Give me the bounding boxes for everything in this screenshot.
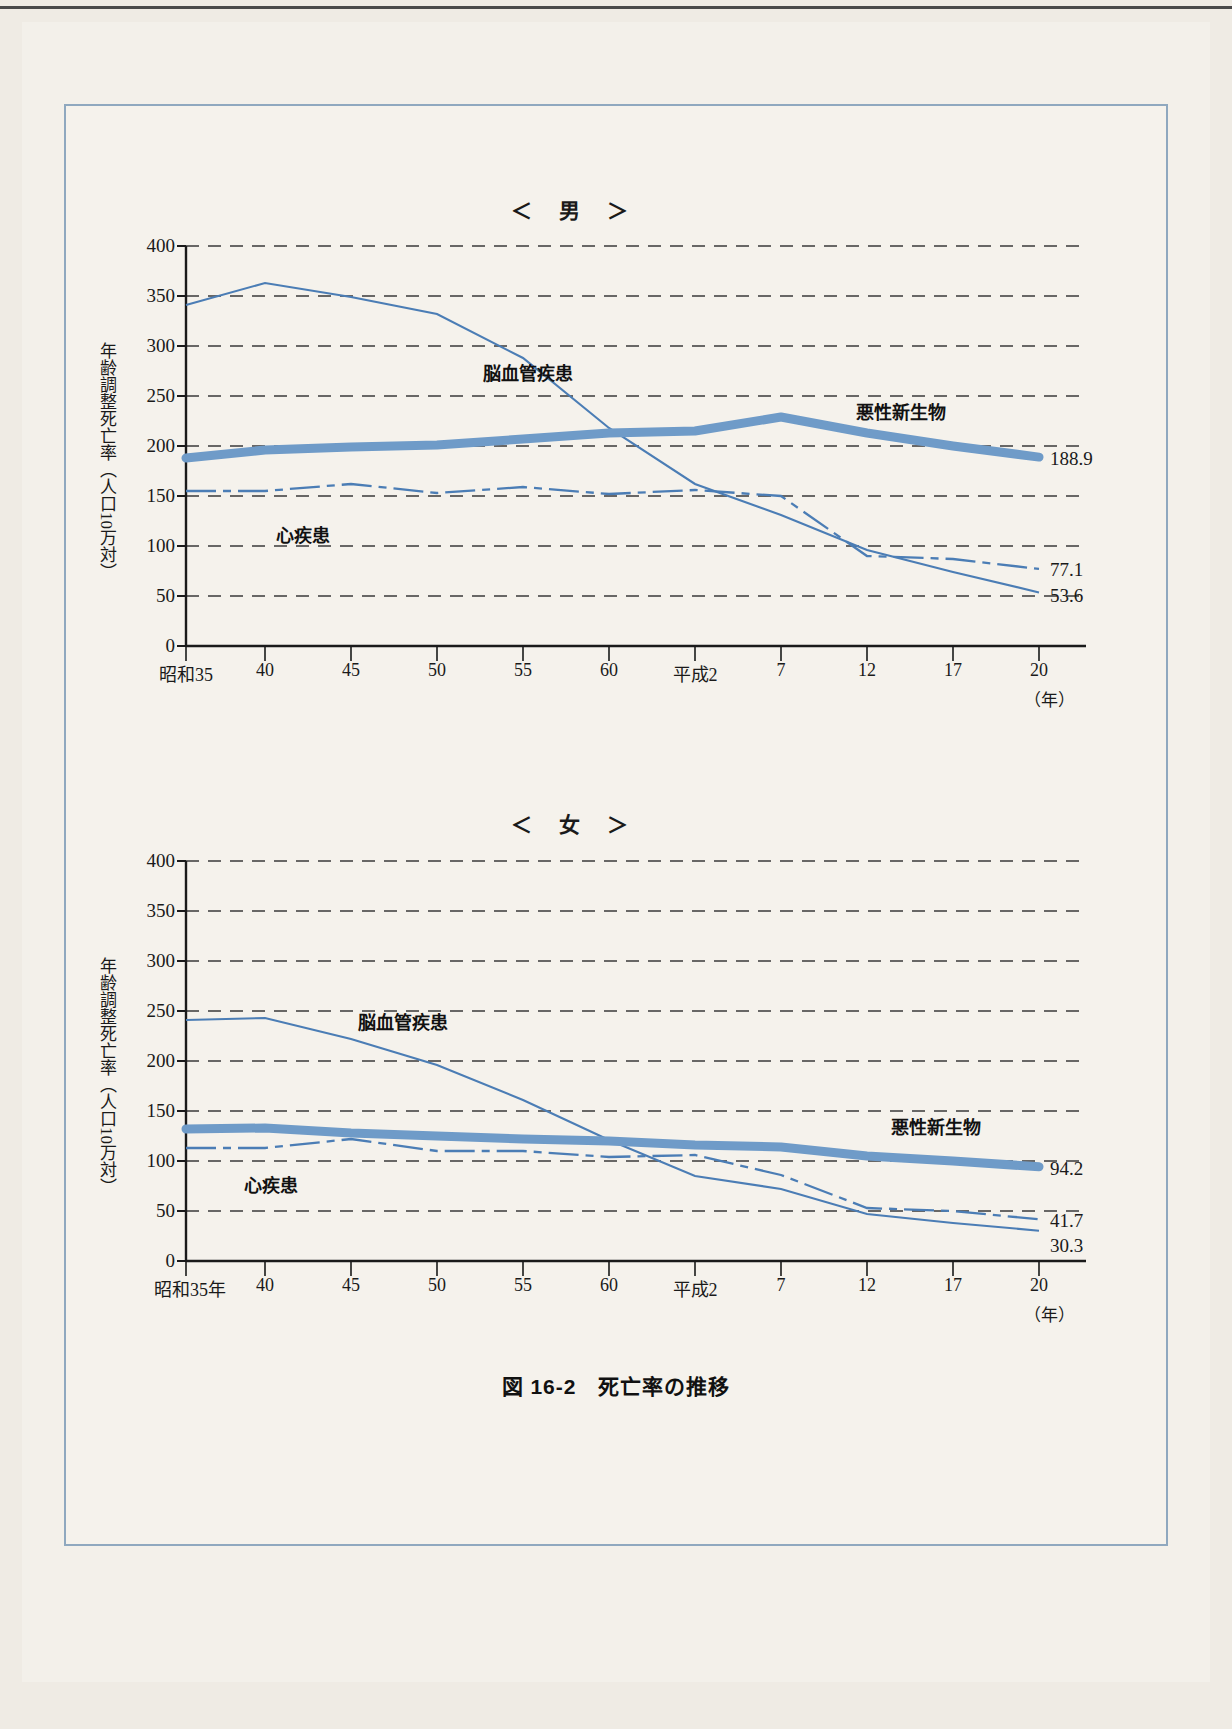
y-tick-male-250: 250 xyxy=(147,385,187,407)
x-tick-female-3: 50 xyxy=(428,1275,446,1296)
x-unit-label-male: （年） xyxy=(1024,686,1075,711)
x-tick-male-4: 55 xyxy=(514,660,532,681)
plot-svg-female xyxy=(186,861,1046,1261)
y-tick-male-100: 100 xyxy=(147,535,187,557)
end-label-cerebrovascular-male: 53.6 xyxy=(1050,585,1083,607)
x-tick-male-10: 20 xyxy=(1030,660,1048,681)
x-tick-female-1: 40 xyxy=(256,1275,274,1296)
y-tick-female-300: 300 xyxy=(147,950,187,972)
x-tick-male-7: 7 xyxy=(777,660,786,681)
y-tick-male-200: 200 xyxy=(147,435,187,457)
series-label-heart-female: 心疾患 xyxy=(244,1171,298,1197)
y-tick-female-250: 250 xyxy=(147,1000,187,1022)
page-top-rule xyxy=(0,6,1232,9)
chart-female: ＜ 女 ＞ 年齢調整死亡率（人口10万対） 400 350 300 250 20… xyxy=(66,746,1162,1406)
series-label-heart-male: 心疾患 xyxy=(276,521,330,547)
x-tick-female-4: 55 xyxy=(514,1275,532,1296)
x-tick-male-1: 40 xyxy=(256,660,274,681)
y-tick-male-50: 50 xyxy=(156,585,186,607)
x-tick-male-6: 平成2 xyxy=(673,660,718,686)
series-label-cerebrovascular-female: 脳血管疾患 xyxy=(358,1008,448,1034)
y-tick-male-400: 400 xyxy=(147,235,187,257)
end-label-cancer-male: 188.9 xyxy=(1050,448,1093,470)
y-tick-female-50: 50 xyxy=(156,1200,186,1222)
end-label-heart-female: 41.7 xyxy=(1050,1210,1083,1232)
chart-title-female: ＜ 女 ＞ xyxy=(511,808,631,838)
end-label-cancer-female: 94.2 xyxy=(1050,1158,1083,1180)
x-tick-male-8: 12 xyxy=(858,660,876,681)
figure-caption: 図 16‑2 死亡率の推移 xyxy=(66,1370,1166,1400)
y-tick-female-150: 150 xyxy=(147,1100,187,1122)
x-tick-male-2: 45 xyxy=(342,660,360,681)
y-tick-male-350: 350 xyxy=(147,285,187,307)
y-axis-label-male: 年齢調整死亡率（人口10万対） xyxy=(98,296,115,626)
x-tick-female-2: 45 xyxy=(342,1275,360,1296)
series-label-cancer-male: 悪性新生物 xyxy=(856,398,946,424)
series-label-cancer-female: 悪性新生物 xyxy=(891,1113,981,1139)
series-line-heart-female xyxy=(186,1139,1039,1219)
x-tick-male-9: 17 xyxy=(944,660,962,681)
x-axis-ticks-male xyxy=(186,646,1039,661)
plot-area-female: 400 350 300 250 200 150 100 50 0 昭和35年 4… xyxy=(186,861,1046,1261)
x-tick-female-0: 昭和35年 xyxy=(154,1275,226,1301)
chart-title-male: ＜ 男 ＞ xyxy=(511,194,631,224)
y-tick-female-100: 100 xyxy=(147,1150,187,1172)
y-tick-male-0: 0 xyxy=(166,635,187,657)
x-tick-female-6: 平成2 xyxy=(673,1275,718,1301)
x-tick-female-9: 17 xyxy=(944,1275,962,1296)
chart-male: ＜ 男 ＞ 年齢調整死亡率（人口10万対） 400 350 300 250 20… xyxy=(66,106,1162,746)
y-axis-label-female: 年齢調整死亡率（人口10万対） xyxy=(98,911,115,1241)
y-tick-female-350: 350 xyxy=(147,900,187,922)
plot-svg-male xyxy=(186,246,1046,646)
x-tick-male-0: 昭和35 xyxy=(159,660,213,686)
x-tick-female-5: 60 xyxy=(600,1275,618,1296)
x-tick-female-10: 20 xyxy=(1030,1275,1048,1296)
end-label-cerebrovascular-female: 30.3 xyxy=(1050,1235,1083,1257)
x-tick-female-8: 12 xyxy=(858,1275,876,1296)
x-tick-male-3: 50 xyxy=(428,660,446,681)
y-tick-male-150: 150 xyxy=(147,485,187,507)
x-tick-male-5: 60 xyxy=(600,660,618,681)
series-label-cerebrovascular-male: 脳血管疾患 xyxy=(483,359,573,385)
x-unit-label-female: （年） xyxy=(1024,1301,1075,1326)
y-tick-female-200: 200 xyxy=(147,1050,187,1072)
page-sheet: ＜ 男 ＞ 年齢調整死亡率（人口10万対） 400 350 300 250 20… xyxy=(22,22,1210,1682)
plot-area-male: 400 350 300 250 200 150 100 50 0 昭和35 40… xyxy=(186,246,1046,646)
x-axis-ticks-female xyxy=(186,1261,1039,1276)
y-tick-female-400: 400 xyxy=(147,850,187,872)
x-tick-female-7: 7 xyxy=(777,1275,786,1296)
figure-frame: ＜ 男 ＞ 年齢調整死亡率（人口10万対） 400 350 300 250 20… xyxy=(64,104,1168,1546)
y-tick-female-0: 0 xyxy=(166,1250,187,1272)
y-tick-male-300: 300 xyxy=(147,335,187,357)
end-label-heart-male: 77.1 xyxy=(1050,559,1083,581)
